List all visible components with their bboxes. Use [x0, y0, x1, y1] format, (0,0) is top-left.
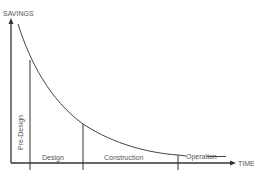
phase-label-operation: Operation	[186, 153, 217, 161]
savings-curve	[18, 24, 186, 156]
x-axis-arrow-icon	[230, 161, 236, 166]
phase-label-predesign: Pre-Design	[17, 115, 25, 150]
savings-over-time-diagram: SAVINGS TIME Pre-Design Design Construct…	[0, 0, 264, 178]
phase-label-construction: Construction	[104, 154, 143, 161]
y-axis-arrow-icon	[9, 18, 14, 24]
y-axis-label: SAVINGS	[3, 10, 34, 17]
x-axis-label: TIME	[238, 160, 255, 167]
phase-label-design: Design	[42, 154, 64, 162]
